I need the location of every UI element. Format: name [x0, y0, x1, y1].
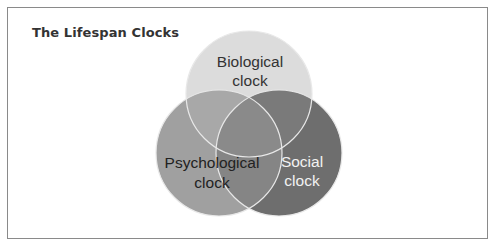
biological-label-line2: clock: [232, 72, 268, 89]
psychological-label-line1: Psychological: [165, 154, 260, 171]
psychological-label-line2: clock: [194, 174, 230, 191]
social-label-line1: Social: [281, 153, 323, 170]
venn-diagram: Biological clock Psychological clock Soc…: [0, 0, 495, 248]
social-label-line2: clock: [284, 172, 320, 189]
biological-label-line1: Biological: [217, 53, 283, 70]
